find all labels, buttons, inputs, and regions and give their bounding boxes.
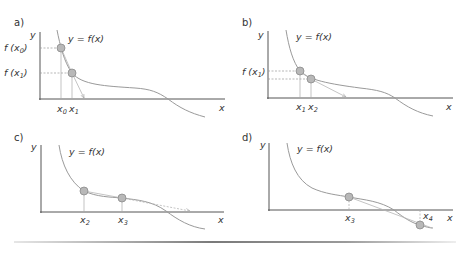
- curve-label: y = f(x): [296, 143, 333, 154]
- point-x3: [118, 194, 126, 202]
- x-tick-label: x2: [307, 101, 318, 114]
- point-x4: [416, 221, 424, 229]
- panel-d: d) y x y = f(x) x3 x4: [242, 132, 453, 229]
- curve-label: y = f(x): [67, 33, 104, 44]
- point-x1: [296, 67, 304, 75]
- point-x3: [345, 193, 353, 201]
- panel-label: d): [242, 132, 252, 143]
- panel-label: b): [242, 17, 252, 28]
- y-tick-label: f (x0): [4, 42, 28, 55]
- y-tick-label: f (x1): [242, 66, 266, 79]
- x-axis-label: x: [218, 102, 225, 113]
- x-tick-label: x4: [422, 210, 433, 223]
- y-axis-label: y: [29, 29, 36, 40]
- x-tick-label: x3: [344, 212, 355, 225]
- y-axis-label: y: [30, 141, 37, 152]
- panel-label: c): [14, 132, 23, 143]
- x-axis-label: x: [217, 214, 224, 225]
- point-x2: [80, 187, 88, 195]
- y-tick-label: f (x1): [4, 67, 28, 80]
- tangent-line-x3: [122, 198, 190, 211]
- panel-label: a): [14, 17, 24, 28]
- tangent-line-x2: [311, 79, 346, 97]
- newton-method-figure: a) y x y = f(x) f (x0) f (x1) x0 x1 b) y…: [0, 0, 463, 253]
- bottom-divider: [14, 241, 456, 243]
- y-axis-label: y: [259, 139, 266, 150]
- function-curve: [287, 143, 433, 228]
- panel-a: a) y x y = f(x) f (x0) f (x1) x0 x1: [4, 17, 225, 117]
- curve-label: y = f(x): [68, 146, 105, 157]
- point-x1: [68, 69, 76, 77]
- x-axis-label: x: [446, 212, 453, 223]
- panel-b: b) y x y = f(x) f (x1) x1 x2: [242, 17, 453, 116]
- x-tick-label: x1: [295, 101, 306, 114]
- x-tick-label: x0: [56, 103, 67, 116]
- x-tick-label: x1: [68, 103, 79, 116]
- point-x0: [57, 44, 65, 52]
- point-x2: [307, 75, 315, 83]
- curve-label: y = f(x): [295, 31, 332, 42]
- x-axis-label: x: [445, 101, 452, 112]
- y-axis-label: y: [257, 29, 264, 40]
- x-tick-label: x2: [79, 214, 90, 227]
- panel-c: c) y x y = f(x) x2 x3: [14, 132, 224, 229]
- x-tick-label: x3: [117, 214, 128, 227]
- tangent-line-x2: [84, 191, 122, 198]
